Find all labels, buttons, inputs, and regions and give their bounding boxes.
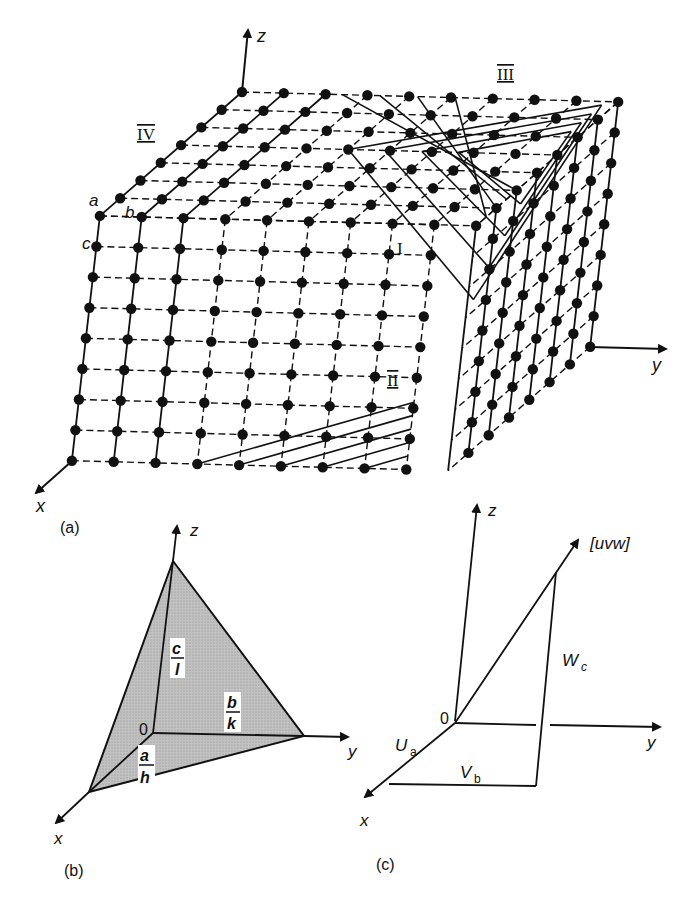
lattice-atom: [342, 108, 352, 118]
lattice-atom: [342, 248, 352, 258]
lattice-atom: [297, 277, 307, 287]
lattice-atom: [363, 433, 373, 443]
lattice-atom: [279, 88, 289, 98]
lattice-atom: [283, 400, 293, 410]
lattice-atom: [241, 399, 251, 409]
lattice-atom: [178, 213, 188, 223]
lattice-line: [120, 198, 496, 208]
lattice-atom: [154, 427, 164, 437]
lattice-atom: [542, 242, 552, 252]
svg-text:k: k: [227, 715, 237, 732]
lattice-atom: [346, 217, 356, 227]
lattice-atom: [322, 126, 332, 136]
lattice-atom: [538, 272, 548, 282]
svg-text:b: b: [227, 694, 237, 711]
lattice-atom: [596, 250, 606, 260]
lattice-atom: [248, 338, 258, 348]
lattice-atom: [408, 201, 418, 211]
lattice-atom: [470, 387, 480, 397]
lattice-atom: [366, 200, 376, 210]
lattice-atom: [210, 306, 220, 316]
lattice-atom: [426, 110, 436, 120]
lattice-atom: [192, 459, 202, 469]
z-axis-arrow: [173, 526, 177, 561]
lattice-atom: [426, 250, 436, 260]
y-axis-label: y: [650, 355, 662, 375]
lattice-atom: [592, 280, 602, 290]
y-axis-label: y: [347, 742, 358, 761]
lattice-atom: [219, 178, 229, 188]
lattice-atom: [95, 211, 105, 221]
lattice-atom: [362, 90, 372, 100]
lattice-atom: [255, 276, 265, 286]
z-axis-arrow: [242, 30, 248, 92]
svg-text:h: h: [140, 769, 150, 786]
svg-text:c: c: [581, 660, 587, 674]
x-axis-label: x: [35, 496, 46, 516]
lattice-atom: [415, 342, 425, 352]
lattice-atom: [239, 160, 249, 170]
lattice-line: [141, 181, 517, 191]
crystal-lattice-figure: z y x a b c IV III I II (a) z y x 0 c: [0, 0, 688, 901]
V-component-line: [389, 784, 536, 786]
lattice-atom: [323, 162, 333, 172]
lattice-atom: [572, 298, 582, 308]
lattice-atom: [196, 122, 206, 132]
svg-text:U: U: [395, 736, 408, 755]
lattice-atom: [258, 246, 268, 256]
lattice-atom: [521, 259, 531, 269]
lattice-atom: [504, 412, 514, 422]
lattice-atom: [565, 193, 575, 203]
lattice-atom: [321, 432, 331, 442]
lattice-param-b: b: [125, 203, 134, 222]
lattice-atom: [579, 237, 589, 247]
x-axis-arrow: [365, 723, 455, 797]
z-axis-label: z: [256, 26, 266, 46]
component-V: V b: [460, 763, 481, 786]
lattice-atom: [582, 206, 592, 216]
lattice-atom: [133, 242, 143, 252]
lattice-atom: [126, 304, 136, 314]
shaded-plane: [89, 561, 304, 792]
W-component-line: [536, 572, 556, 786]
plane-label-I: I: [397, 239, 403, 258]
lattice-atom: [507, 382, 517, 392]
lattice-atom: [447, 129, 457, 139]
lattice-atom: [157, 194, 167, 204]
lattice-atom: [137, 212, 147, 222]
lattice-atom: [404, 91, 414, 101]
lattice-atom: [528, 364, 538, 374]
lattice-atom: [279, 430, 289, 440]
lattice-atom: [498, 308, 508, 318]
lattice-atom: [488, 234, 498, 244]
lattice-atom: [501, 277, 511, 287]
lattice-atoms: [67, 87, 624, 475]
panel-a-lattice: z y x a b c IV III I II (a): [35, 26, 666, 536]
lattice-atom: [213, 275, 223, 285]
lattice-atom: [488, 93, 498, 103]
lattice-atom: [81, 333, 91, 343]
panel-b-miller-plane: z y x 0 c l b k a h (b): [53, 521, 358, 879]
lattice-atom: [260, 142, 270, 152]
lattice-line: [222, 110, 598, 120]
x-axis-arrow: [36, 461, 72, 493]
lattice-param-c: c: [82, 234, 91, 253]
lattice-atom: [508, 216, 518, 226]
lattice-atom: [406, 164, 416, 174]
lattice-atom: [510, 149, 520, 159]
z-axis-arrow: [455, 505, 477, 721]
lattice-atom: [244, 368, 254, 378]
lattice-atom: [571, 96, 581, 106]
lattice-atom: [531, 131, 541, 141]
lattice-atom: [177, 176, 187, 186]
lattice-atom: [524, 395, 534, 405]
lattice-atom: [300, 107, 310, 117]
lattice-atom: [363, 127, 373, 137]
lattice-atom: [491, 203, 501, 213]
lattice-atom: [91, 241, 101, 251]
lattice-atom: [449, 202, 459, 212]
x-axis-arrow: [56, 792, 89, 823]
lattice-atom: [171, 274, 181, 284]
uvw-direction-arrow: [455, 540, 578, 723]
lattice-atom: [109, 457, 119, 467]
